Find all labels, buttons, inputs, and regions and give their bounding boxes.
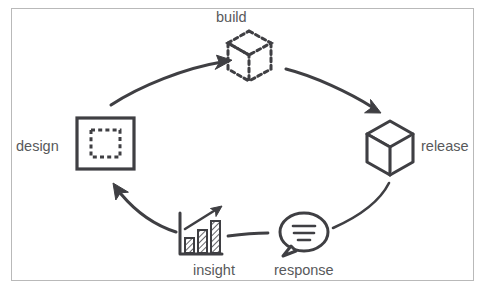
node-label-design: design <box>16 139 59 154</box>
node-label-release: release <box>421 139 469 154</box>
node-label-response: response <box>274 263 334 278</box>
diagram-canvas <box>0 0 486 295</box>
edge-insight-to-design-line <box>121 194 176 232</box>
edge-insight-to-design-arrowhead <box>113 183 128 200</box>
edge-build-to-release-arrowhead <box>365 100 381 114</box>
node-design[interactable] <box>77 118 134 169</box>
edge-response-to-insight-line <box>228 233 268 236</box>
edge-build-to-release-line <box>286 69 372 107</box>
edge-release-to-response-line <box>333 183 389 228</box>
edge-response-to-insight <box>228 233 268 236</box>
insight-bar-chart-trend-up-icon <box>180 206 222 254</box>
diagram-page: build release design insight response <box>0 0 486 295</box>
build-dashed-cube-icon <box>228 31 271 81</box>
edge-design-to-build <box>111 55 232 105</box>
node-label-insight: insight <box>193 263 235 278</box>
edge-build-to-release <box>286 69 381 113</box>
node-label-build: build <box>216 10 247 25</box>
response-speech-bubble-icon <box>280 213 328 256</box>
node-release[interactable] <box>367 121 413 175</box>
node-insight[interactable] <box>180 206 222 254</box>
node-response[interactable] <box>280 213 328 256</box>
design-outer-square-icon <box>77 118 134 169</box>
edge-design-to-build-line <box>111 62 222 105</box>
edge-insight-to-design <box>113 183 176 232</box>
node-build[interactable] <box>228 31 271 81</box>
release-cube-icon <box>367 121 413 175</box>
edge-release-to-response <box>333 183 389 228</box>
